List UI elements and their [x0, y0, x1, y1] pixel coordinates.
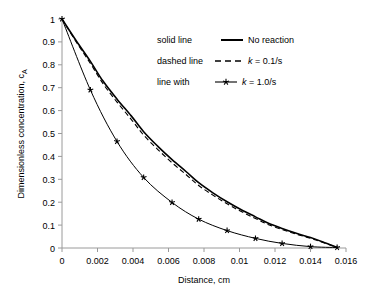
y-tick-label: 0.4 — [42, 152, 55, 162]
series-line — [62, 19, 337, 248]
marker-center — [281, 243, 283, 245]
legend-entry-1: solid lineNo reaction — [157, 35, 294, 45]
y-tick-label: 0 — [50, 244, 55, 254]
x-tick-label: 0.01 — [231, 256, 249, 266]
data-point-marker — [279, 240, 285, 245]
marker-center — [116, 141, 118, 143]
y-axis-title-subscript: A — [21, 69, 28, 74]
marker-center — [336, 247, 338, 249]
data-point-marker — [196, 216, 202, 221]
series-3 — [59, 16, 340, 250]
series-line — [62, 19, 337, 247]
x-axis-tick-labels: 00.0020.0040.0060.0080.010.0120.0140.016 — [59, 256, 357, 266]
y-tick-label: 0.9 — [42, 37, 55, 47]
x-tick-label: 0.004 — [122, 256, 145, 266]
legend-label-value: = 0.1/s — [253, 56, 283, 66]
y-tick-label: 0.5 — [42, 129, 55, 139]
x-tick-label: 0.012 — [264, 256, 287, 266]
marker-center — [310, 246, 312, 248]
legend-entry-label: k = 0.1/s — [248, 56, 283, 66]
y-tick-label: 0.2 — [42, 198, 55, 208]
y-tick-label: 0.7 — [42, 83, 55, 93]
y-axis-title: Dimensionless concentration, cA — [16, 69, 28, 199]
x-tick-label: 0 — [59, 256, 64, 266]
legend-entry-prefix: solid line — [157, 35, 192, 45]
y-axis-tick-labels: 00.10.20.30.40.50.60.70.80.91 — [42, 15, 55, 254]
y-axis-ticks — [58, 19, 62, 248]
legend-entry-prefix: line with — [157, 77, 190, 87]
data-point-marker — [114, 139, 120, 144]
marker-center — [61, 18, 63, 20]
y-tick-label: 0.8 — [42, 60, 55, 70]
marker-center — [198, 218, 200, 220]
x-tick-label: 0.008 — [193, 256, 216, 266]
data-point-marker — [224, 228, 230, 233]
series-line — [62, 19, 337, 247]
legend-entry-3: line withk = 1.0/s — [157, 77, 277, 87]
y-tick-label: 0.1 — [42, 221, 55, 231]
x-tick-label: 0.002 — [86, 256, 109, 266]
legend-label-value: = 1.0/s — [247, 77, 277, 87]
legend-entry-2: dashed linek = 0.1/s — [157, 56, 283, 66]
chart-figure: 00.0020.0040.0060.0080.010.0120.0140.016… — [0, 0, 369, 294]
x-tick-label: 0.006 — [157, 256, 180, 266]
line-chart: 00.0020.0040.0060.0080.010.0120.0140.016… — [0, 0, 369, 294]
series-1 — [62, 19, 337, 247]
marker-center — [90, 89, 92, 91]
y-axis-title-main: Dimensionless concentration, c — [16, 74, 26, 199]
data-point-marker — [88, 87, 94, 92]
x-axis-title: Distance, cm — [178, 275, 230, 285]
legend-entry-label: No reaction — [248, 35, 294, 45]
series-2 — [62, 19, 337, 247]
data-point-marker — [223, 79, 229, 85]
chart-legend: solid lineNo reactiondashed linek = 0.1/… — [157, 35, 294, 87]
marker-center — [255, 237, 257, 239]
legend-entry-label: k = 1.0/s — [242, 77, 277, 87]
data-point-marker — [334, 245, 340, 250]
y-tick-label: 0.3 — [42, 175, 55, 185]
axes — [62, 19, 346, 248]
marker-center — [225, 81, 227, 83]
y-tick-label: 1 — [50, 15, 55, 25]
marker-center — [171, 202, 173, 204]
data-point-marker — [253, 235, 259, 240]
marker-center — [226, 230, 228, 232]
x-axis-ticks — [62, 248, 346, 252]
x-tick-label: 0.016 — [335, 256, 358, 266]
marker-center — [143, 177, 145, 179]
x-tick-label: 0.014 — [299, 256, 322, 266]
y-axis-title-group: Dimensionless concentration, cA — [16, 69, 28, 199]
data-series-layer — [59, 16, 340, 250]
legend-entry-prefix: dashed line — [157, 56, 203, 66]
y-tick-label: 0.6 — [42, 106, 55, 116]
